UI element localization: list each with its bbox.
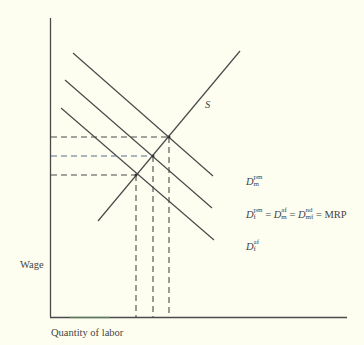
demand-label-middle: Dpmf = Dafm = Dndmf = MRP — [246, 209, 347, 223]
equilibrium-point-top — [168, 136, 171, 139]
demand-top-base: D — [246, 176, 254, 187]
demand-curve-middle — [65, 80, 212, 208]
demand-label-bottom: Daff — [246, 241, 259, 255]
demand-mid-term1-sub: f — [254, 214, 263, 221]
equilibrium-point-bottom — [135, 174, 138, 177]
demand-mid-term2-sub: m — [281, 214, 286, 221]
demand-mid-term3-base: D — [298, 209, 306, 220]
demand-bottom-base: D — [246, 241, 254, 252]
demand-bottom-sub: f — [254, 246, 259, 253]
equals-sign: = — [289, 209, 295, 220]
demand-mid-term1-base: D — [246, 209, 254, 220]
demand-mid-term3-sub: mf — [306, 214, 314, 221]
equals-sign: = — [316, 209, 322, 220]
mrp-label: MRP — [324, 209, 346, 220]
demand-top-sub: m — [254, 181, 263, 188]
equals-sign: = — [265, 209, 271, 220]
diagram-canvas — [0, 0, 364, 345]
equilibrium-point-middle — [152, 155, 155, 158]
demand-mid-term2-base: D — [274, 209, 282, 220]
demand-curve-top — [73, 53, 213, 176]
demand-label-top: Dpmm — [246, 176, 263, 190]
supply-label: S — [205, 99, 210, 110]
labor-market-diagram: S Dpmm Dpmf = Dafm = Dndmf = MRP Daff Wa… — [0, 0, 364, 345]
x-axis-label: Quantity of labor — [51, 327, 123, 338]
y-axis-label: Wage — [20, 259, 44, 270]
